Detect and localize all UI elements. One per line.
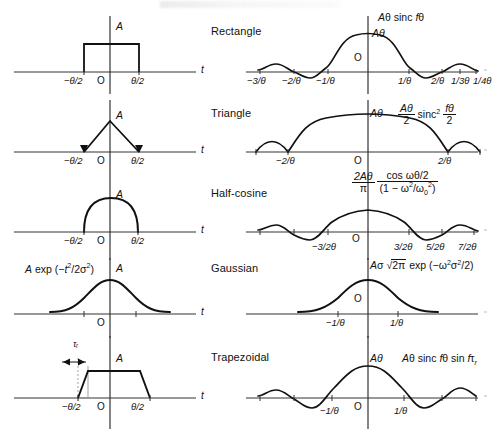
halfcosine-time-panel: A O −θ/2 θ/2 t Half-cosine <box>0 180 246 260</box>
time-formula-gaussian: A exp (−t2/2σ2) <box>25 263 94 275</box>
tick-label-neg1: −1/θ <box>326 318 345 328</box>
gaussian-time-panel: A exp (−t2/2σ2) A O t Gaussian <box>0 258 246 338</box>
tick-label-pos2: 2/θ <box>431 76 444 86</box>
half-cosine-curve <box>84 198 138 232</box>
amplitude-label: A <box>116 189 123 200</box>
tick-label-left: −θ/2 <box>64 236 83 246</box>
peak-label: Aθ <box>372 28 385 39</box>
tick-label-neg3: −3/θ <box>247 76 266 86</box>
row-rectangle: A O −θ/2 θ/2 t Rectangle Aθ sinc fθ <box>0 8 492 94</box>
tick-label-pos3: 1/3θ <box>451 76 469 86</box>
triangle-time-panel: A O −θ/2 θ/2 t Triangle <box>0 100 246 180</box>
trapezoidal-time-plot <box>0 336 246 429</box>
amplitude-label: A <box>116 110 123 121</box>
time-axis-label: t <box>201 391 204 402</box>
origin-label: O <box>352 234 360 245</box>
origin-label: O <box>97 76 105 87</box>
trapezoid-pulse-curve <box>78 371 150 398</box>
tick-label-left: −θ/2 <box>62 402 81 412</box>
tick-label-pos5: 5/2θ <box>426 242 444 252</box>
tick-label-neg1: −1/θ <box>320 406 339 416</box>
time-axis-label: t <box>201 145 204 156</box>
tick-label-right: θ/2 <box>131 236 144 246</box>
origin-label: O <box>354 53 362 64</box>
origin-label: O <box>97 402 105 413</box>
row-gaussian: A exp (−t2/2σ2) A O t Gaussian Aσ √2π ex… <box>0 258 492 338</box>
origin-label: O <box>354 156 362 167</box>
rise-time-label: τᵣ <box>73 340 78 349</box>
trapezoidal-time-panel: τᵣ A O −θ/2 θ/2 t Trapezoidal <box>0 336 246 429</box>
rectangle-time-panel: A O −θ/2 θ/2 t Rectangle <box>0 8 246 94</box>
rise-arrow-right <box>78 359 85 366</box>
tick-label-left: −θ/2 <box>64 76 83 86</box>
halfcosine-freq-panel: 2Aθπ cos ωθ/2(1 − ω2/ω02) O −3/2θ 3/2θ 5… <box>246 180 492 260</box>
tick-label-neg2: −2/θ <box>276 156 295 166</box>
row-triangle: A O −θ/2 θ/2 t Triangle Aθ Aθ2 sinc2 fθ2… <box>0 100 492 180</box>
freq-formula-rectangle: Aθ sinc fθ <box>378 12 424 23</box>
origin-label: O <box>354 402 362 413</box>
row-half-cosine: A O −θ/2 θ/2 t Half-cosine 2Aθπ cos ωθ/2… <box>0 180 492 260</box>
triangle-pulse-curve <box>84 121 139 152</box>
triangle-freq-panel: Aθ Aθ2 sinc2 fθ2 O −2/θ 2/θ <box>246 100 492 180</box>
rise-arrow-left <box>63 359 70 366</box>
origin-label: O <box>97 156 105 167</box>
tick-label-left: −θ/2 <box>64 156 83 166</box>
trapezoidal-freq-plot <box>246 336 492 429</box>
tick-label-pos2: 2/θ <box>438 156 451 166</box>
amplitude-label: A <box>116 263 123 274</box>
tick-label-pos1: 1/θ <box>394 406 407 416</box>
tick-label-right: θ/2 <box>131 402 144 412</box>
row-trapezoidal: τᵣ A O −θ/2 θ/2 t Trapezoidal Aθ Aθ s <box>0 336 492 429</box>
tick-label-pos4: 1/4θ <box>473 76 491 86</box>
time-axis-label: t <box>201 307 204 318</box>
peak-label: Aθ <box>370 353 383 364</box>
tick-label-pos7: 7/2θ <box>458 242 476 252</box>
figure-page: A O −θ/2 θ/2 t Rectangle Aθ sinc fθ <box>0 0 492 429</box>
tick-label-pos1: 1/θ <box>398 76 411 86</box>
tick-label-right: θ/2 <box>131 76 144 86</box>
gaussian-freq-panel: Aσ √2π exp (−ω2σ2/2) O −1/θ 1/θ <box>246 258 492 338</box>
freq-formula-triangle: Aθ2 sinc2 fθ2 <box>398 103 456 126</box>
tick-label-pos1: 1/θ <box>390 318 403 328</box>
origin-label: O <box>97 318 105 329</box>
trapezoidal-freq-panel: Aθ Aθ sinc fθ sin fτr O −1/θ 1/θ <box>246 336 492 429</box>
freq-formula-half-cosine: 2Aθπ cos ωθ/2(1 − ω2/ω02) <box>352 170 438 197</box>
rectangle-pulse-curve <box>84 44 139 72</box>
time-axis-label: t <box>201 225 204 236</box>
freq-formula-trapezoidal: Aθ sinc fθ sin fτr <box>402 353 477 368</box>
origin-label: O <box>354 294 362 305</box>
page-bleed-artifact <box>160 1 340 8</box>
time-axis-label: t <box>201 65 204 76</box>
origin-label: O <box>97 236 105 247</box>
freq-formula-gaussian: Aσ √2π exp (−ω2σ2/2) <box>370 259 474 271</box>
rectangle-freq-panel: Aθ sinc fθ Aθ O −3/θ −2/θ −1/θ 1/θ 2/θ 1… <box>246 8 492 94</box>
tick-label-neg1: −1/θ <box>316 76 335 86</box>
tick-label-pos3: 3/2θ <box>394 242 412 252</box>
trapezoid-transform-curve <box>258 366 476 408</box>
amplitude-label: A <box>116 21 123 32</box>
tick-label-neg2: −2/θ <box>282 76 301 86</box>
peak-label: Aθ <box>370 108 383 119</box>
tick-label-right: θ/2 <box>131 156 144 166</box>
tick-label-neg3: −3/2θ <box>312 242 336 252</box>
amplitude-label: A <box>116 353 123 364</box>
